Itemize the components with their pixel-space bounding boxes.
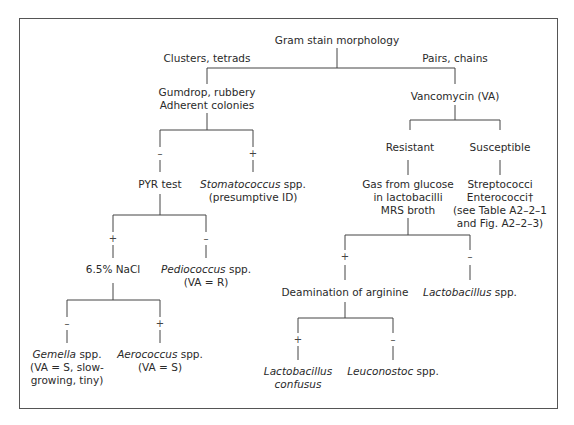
node-streptococci: Streptococci Enterococci† (see Table A2–… bbox=[453, 178, 547, 230]
node-gemella: Gemella spp. (VA = S, slow- growing, tin… bbox=[30, 348, 104, 387]
sign-minus: – bbox=[204, 234, 209, 244]
node-root: Gram stain morphology bbox=[275, 34, 399, 47]
sign-minus: – bbox=[158, 149, 163, 159]
label-clusters-tetrads: Clusters, tetrads bbox=[164, 52, 251, 65]
node-pediococcus: Pediococcus spp. (VA = R) bbox=[161, 263, 251, 289]
node-gumdrop: Gumdrop, rubbery Adherent colonies bbox=[159, 86, 256, 112]
sign-plus: + bbox=[341, 252, 349, 262]
node-nacl: 6.5% NaCl bbox=[86, 263, 141, 276]
label-pairs-chains: Pairs, chains bbox=[422, 52, 488, 65]
node-resistant: Resistant bbox=[386, 141, 434, 154]
node-susceptible: Susceptible bbox=[470, 141, 531, 154]
sign-plus: + bbox=[249, 149, 257, 159]
sign-minus: – bbox=[65, 319, 70, 329]
node-lactobacillus-spp: Lactobacillus spp. bbox=[423, 286, 517, 299]
sign-minus: – bbox=[391, 335, 396, 345]
node-gas-from-glucose: Gas from glucose in lactobacilli MRS bro… bbox=[362, 178, 454, 217]
node-deamination: Deamination of arginine bbox=[282, 286, 409, 299]
node-lactobacillus-confusus: Lactobacillus confusus bbox=[264, 365, 332, 391]
node-leuconostoc: Leuconostoc spp. bbox=[347, 365, 439, 378]
sign-minus: – bbox=[468, 252, 473, 262]
sign-plus: + bbox=[156, 319, 164, 329]
sign-plus: + bbox=[294, 335, 302, 345]
node-aerococcus: Aerococcus spp. (VA = S) bbox=[117, 348, 203, 374]
node-vancomycin: Vancomycin (VA) bbox=[411, 90, 500, 103]
sign-plus: + bbox=[109, 234, 117, 244]
node-pyr-test: PYR test bbox=[138, 178, 181, 191]
node-stomatococcus: Stomatococcus spp. (presumptive ID) bbox=[200, 178, 306, 204]
